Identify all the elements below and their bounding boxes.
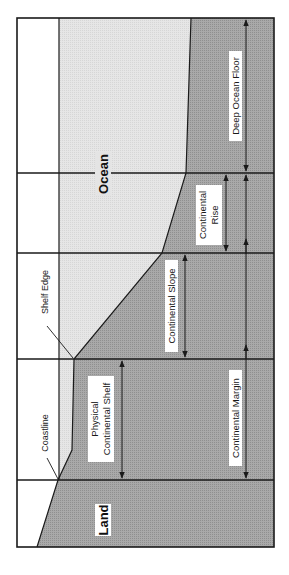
- continental-rise-label: Continental Rise: [196, 185, 222, 245]
- svg-text:Shelf Edge: Shelf Edge: [40, 270, 50, 314]
- svg-text:Ocean: Ocean: [96, 154, 111, 194]
- svg-text:Continental: Continental: [197, 191, 208, 239]
- svg-text:Physical: Physical: [89, 401, 100, 436]
- svg-text:Continental Slope: Continental Slope: [166, 269, 177, 344]
- svg-text:Rise: Rise: [209, 205, 220, 224]
- continental-margin-label: Continental Margin: [229, 370, 242, 466]
- continental-margin-diagram: Land Ocean Coastline Shelf Edge Physical…: [0, 0, 289, 575]
- land-label: Land: [95, 504, 111, 536]
- svg-text:Deep Ocean Floor: Deep Ocean Floor: [230, 57, 241, 135]
- coastline-pointer: [47, 458, 58, 479]
- physical-shelf-label: Physical Continental Shelf: [88, 376, 114, 462]
- svg-text:Continental Shelf: Continental Shelf: [101, 382, 112, 455]
- ocean-label: Ocean: [95, 152, 111, 196]
- svg-text:Land: Land: [96, 504, 111, 535]
- svg-text:Coastline: Coastline: [40, 414, 50, 452]
- continental-slope-label: Continental Slope: [165, 260, 178, 352]
- shelf-edge-label: Shelf Edge: [40, 270, 50, 314]
- svg-text:Continental Margin: Continental Margin: [230, 378, 241, 458]
- coastline-label: Coastline: [40, 414, 50, 452]
- deep-ocean-floor-label: Deep Ocean Floor: [229, 51, 242, 141]
